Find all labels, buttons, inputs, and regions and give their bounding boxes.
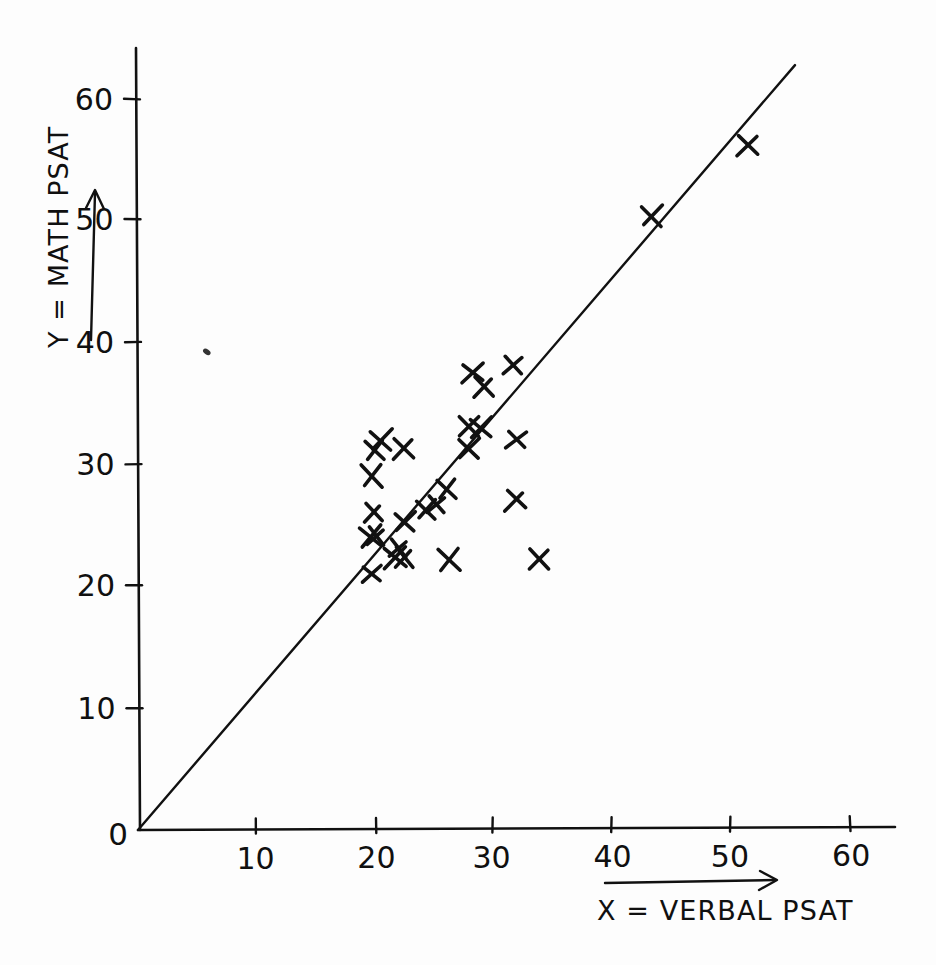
x-tick-label-10: 10 (236, 841, 274, 876)
stray-pencil-mark (202, 347, 212, 356)
y-tick-60 (124, 99, 140, 100)
y-tick-label-40: 40 (76, 325, 114, 360)
data-point (370, 429, 392, 450)
data-point-markers (360, 136, 758, 583)
data-point (529, 549, 548, 569)
y-axis-tick-labels: 102030405060 (75, 82, 116, 727)
x-tick-label-40: 40 (593, 839, 631, 874)
data-point (459, 438, 479, 458)
y-axis-line (136, 48, 140, 830)
chart-canvas: 102030405060 102030405060 0 X = VERBAL P… (0, 0, 936, 965)
data-point (470, 417, 491, 438)
data-point (437, 479, 456, 498)
data-point (506, 431, 527, 447)
data-point (365, 503, 383, 522)
x-tick-60 (850, 816, 851, 831)
y-axis-title: Y = MATH PSAT (43, 126, 74, 349)
x-axis-ticks (256, 816, 851, 833)
data-point (505, 491, 526, 512)
data-point (361, 465, 382, 488)
stray-dot (202, 347, 212, 356)
data-point (737, 136, 758, 156)
x-tick-label-60: 60 (832, 838, 870, 873)
x-tick-label-30: 30 (472, 840, 510, 875)
y-tick-label-30: 30 (76, 447, 114, 482)
data-point (642, 205, 663, 226)
y-tick-label-10: 10 (77, 691, 115, 726)
x-tick-label-20: 20 (357, 840, 395, 875)
x-axis-tick-labels: 102030405060 (236, 838, 870, 875)
data-point (395, 512, 415, 531)
y-tick-label-60: 60 (75, 82, 113, 117)
data-point (438, 549, 460, 571)
data-point (503, 356, 522, 373)
y-tick-label-20: 20 (77, 568, 115, 603)
origin-label: 0 (108, 816, 128, 852)
y-axis-title-group: Y = MATH PSAT (43, 126, 104, 349)
x-axis-line (138, 827, 895, 830)
data-point (363, 566, 382, 583)
x-axis-title: X = VERBAL PSAT (597, 895, 853, 926)
data-point (393, 439, 413, 460)
x-tick-label-50: 50 (711, 839, 749, 874)
scatter-plot-figure: 102030405060 102030405060 0 X = VERBAL P… (0, 0, 936, 965)
x-axis-title-group: X = VERBAL PSAT (597, 871, 853, 926)
x-axis-direction-arrow (605, 880, 775, 883)
